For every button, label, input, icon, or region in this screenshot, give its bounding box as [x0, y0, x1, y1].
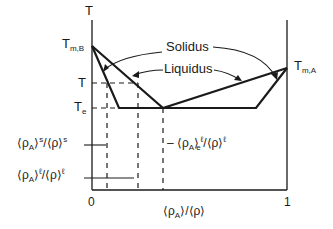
text: ⟩/⟨ρ⟩	[180, 204, 205, 218]
x-axis-label: ⟨ρA⟩/⟨ρ⟩	[163, 205, 205, 220]
liquid-composition-label: ⟨ρA⟩ℓ/⟨ρ⟩ℓ	[17, 168, 65, 184]
text: ℓ	[223, 135, 226, 144]
text: /⟨ρ⟩	[42, 168, 62, 182]
solidus-arrow-right	[213, 47, 276, 78]
text: e	[196, 143, 200, 152]
te-sub: e	[82, 107, 86, 116]
solidus-label: Solidus	[166, 40, 209, 53]
y-axis-label: T	[85, 4, 93, 17]
tmb-label: Tm,B	[62, 37, 84, 53]
tmb-main: T	[62, 36, 70, 51]
x-min-label: 0	[88, 196, 95, 208]
text: s	[63, 135, 67, 144]
tmb-sub: m,B	[70, 44, 84, 53]
te-main: T	[74, 99, 82, 114]
arrowhead-icon	[103, 64, 109, 72]
solidus-arrow-left	[104, 52, 162, 70]
arrowhead-icon	[132, 71, 139, 78]
t-label: T	[78, 76, 86, 89]
x-max-label: 1	[284, 196, 291, 208]
text: ⟨ρ	[17, 168, 29, 182]
tma-main: T	[294, 58, 302, 73]
liquidus-curve	[92, 46, 287, 108]
eutectic-composition-label: – ⟨ρA⟩eℓ/⟨ρ⟩ℓ	[167, 136, 226, 152]
solid-composition-label: ⟨ρA⟩s/⟨ρ⟩s	[17, 136, 67, 152]
text: /⟨ρ⟩	[43, 136, 63, 150]
text: /⟨ρ⟩	[203, 136, 223, 150]
text: ⟨ρ	[163, 204, 175, 218]
te-label: Te	[74, 100, 86, 116]
tma-label: Tm,A	[294, 59, 316, 75]
tma-sub: m,A	[302, 66, 316, 75]
arrowhead-icon	[234, 75, 242, 81]
text: – ⟨ρ	[167, 136, 189, 150]
text: ℓ	[62, 167, 65, 176]
text: ⟨ρ	[17, 136, 29, 150]
liquidus-label: Liquidus	[164, 62, 212, 75]
